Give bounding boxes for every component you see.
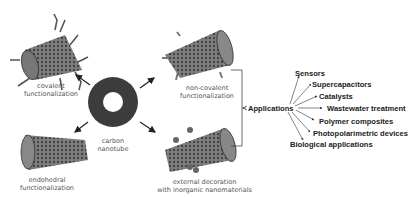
covalent-label: covalent functionalization (16, 82, 86, 98)
non-covalent-label-line2: functionalization (167, 92, 247, 100)
endohedral-label-line1: endohedral (12, 176, 82, 184)
external-decoration-nanotube-image (165, 127, 239, 173)
center-label-line2: nanotube (88, 145, 138, 153)
endohedral-label: endohedral functionalization (12, 176, 82, 192)
app-catalysts: Catalysts (319, 92, 353, 101)
covalent-label-line1: covalent (16, 82, 86, 90)
app-wastewater: Wastewater treatment (327, 104, 406, 113)
external-decoration-label: external decoration with inorganic nanom… (152, 178, 257, 194)
app-polymer: Polymer composites (319, 117, 393, 126)
non-covalent-nanotube-image (162, 29, 236, 80)
carbon-nanotube-label: carbon nanotube (88, 137, 138, 153)
covalent-label-line2: functionalization (16, 90, 86, 98)
non-covalent-label: non-covalent functionalization (167, 84, 247, 100)
non-covalent-label-line1: non-covalent (167, 84, 247, 92)
endohedral-label-line2: functionalization (12, 184, 82, 192)
applications-label: Applications (248, 104, 294, 113)
app-photopolarimetric: Photopolarimetric devices (313, 129, 408, 138)
app-supercapacitors: Supercapacitors (312, 80, 372, 89)
app-sensors: Sensors (295, 69, 325, 78)
external-label-line1: external decoration (152, 178, 257, 186)
carbon-nanotube-cross-section (88, 77, 138, 127)
external-label-line2: with inorganic nanomaterials (152, 186, 257, 194)
app-biological: Biological applications (290, 140, 373, 149)
endohedral-nanotube-image (21, 135, 88, 170)
covalent-nanotube-image (10, 14, 88, 90)
center-label-line1: carbon (88, 137, 138, 145)
